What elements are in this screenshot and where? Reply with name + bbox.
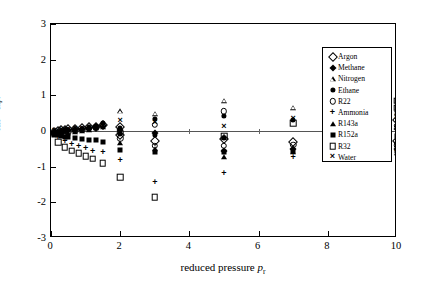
data-point-nitrogen: [93, 124, 99, 129]
data-point-nitrogen: [394, 107, 395, 112]
x-axis-title-text: reduced pressure: [181, 261, 258, 273]
legend-item-label: R152a: [338, 130, 358, 139]
data-point-ammonia: +: [291, 153, 296, 162]
data-point-r32: [221, 133, 228, 140]
data-point-water: ×: [291, 114, 296, 123]
legend-item-nitrogen[interactable]: Nitrogen: [328, 73, 391, 84]
data-point-water: ×: [66, 125, 71, 134]
data-point-r32: [394, 105, 395, 112]
data-point-r152a: [66, 135, 71, 140]
data-point-r32: [290, 120, 297, 127]
x-axis-tick-label: 0: [47, 240, 52, 251]
x-axis-tick-label: 10: [391, 240, 402, 251]
data-point-water: ×: [394, 112, 395, 121]
data-point-ethane: [291, 118, 296, 123]
legend-item-label: Water: [338, 153, 356, 162]
data-point-ammonia: +: [76, 142, 81, 151]
x-axis-tick-label: 6: [255, 240, 260, 251]
data-point-methane: [220, 147, 227, 154]
data-point-r152a: [52, 132, 57, 137]
data-point-r22: [93, 124, 99, 130]
data-point-r152a: [118, 147, 123, 152]
legend-item-label: Methane: [338, 63, 365, 72]
open-square-icon: [328, 142, 337, 151]
legend-item-r152a[interactable]: R152a: [328, 129, 391, 140]
data-point-ethane: [86, 125, 91, 130]
data-point-r143a: [290, 150, 296, 155]
data-point-water: ×: [118, 116, 123, 125]
x-axis-tick-label: 2: [117, 240, 122, 251]
x-axis-title-subscript: r: [263, 267, 266, 276]
data-point-ammonia: +: [394, 148, 395, 157]
data-point-r22: [290, 141, 296, 147]
x-axis-tick: [120, 231, 121, 236]
data-point-r22: [394, 142, 395, 148]
data-point-ethane: [221, 136, 226, 141]
data-point-r152a: [222, 149, 227, 154]
data-point-r152a: [55, 133, 60, 138]
data-point-ethane: [394, 112, 395, 117]
data-point-r152a: [87, 137, 92, 142]
y-axis-tick: [51, 95, 56, 96]
data-point-r152a: [80, 136, 85, 141]
data-point-r143a: [100, 124, 106, 129]
legend-item-ammonia[interactable]: +Ammonia: [328, 107, 391, 118]
data-point-r152a: [395, 148, 396, 153]
cross-icon: ×: [328, 153, 337, 162]
zero-line-tick: [189, 129, 190, 134]
data-point-r32: [55, 139, 62, 146]
filled-square-icon: [328, 130, 337, 139]
data-point-argon: [63, 124, 73, 134]
data-point-r143a: [221, 154, 227, 159]
data-point-r152a: [152, 150, 157, 155]
y-axis-tick: [51, 202, 56, 203]
open-triangle-icon: [328, 74, 337, 83]
figure-scatter-plot: 3210-1-2-3 100(1-Zcalc/Zexpt) ++++++++++…: [0, 0, 426, 290]
y-axis-tick-label: 2: [41, 53, 46, 64]
data-point-r32: [75, 150, 82, 157]
legend-item-r22[interactable]: R22: [328, 96, 391, 107]
y-axis-tick: [51, 24, 56, 25]
data-point-r152a: [62, 134, 67, 139]
legend-item-label: R22: [338, 97, 351, 106]
legend-item-ethane[interactable]: Ethane: [328, 85, 391, 96]
data-point-r32: [89, 156, 96, 163]
data-point-argon: [392, 136, 395, 146]
data-point-methane: [393, 145, 395, 152]
data-point-nitrogen: [152, 111, 158, 116]
data-point-r32: [62, 144, 69, 151]
data-point-r152a: [100, 139, 105, 144]
legend-item-label: R143a: [338, 119, 358, 128]
data-point-r152a: [291, 148, 296, 153]
data-point-r22: [152, 121, 158, 127]
data-point-water: ×: [73, 125, 78, 134]
data-point-argon: [392, 115, 395, 125]
data-point-r152a: [73, 136, 78, 141]
y-axis-tick: [51, 60, 56, 61]
data-point-r143a: [152, 146, 158, 151]
legend-item-label: R32: [338, 142, 351, 151]
data-point-nitrogen: [86, 125, 92, 130]
data-point-methane: [51, 129, 58, 136]
legend-item-r32[interactable]: R32: [328, 141, 391, 152]
data-point-r143a: [394, 150, 395, 155]
legend-item-argon[interactable]: Argon: [328, 51, 391, 62]
data-point-r143a: [93, 125, 99, 130]
x-axis-tick: [259, 231, 260, 236]
legend-item-r143a[interactable]: R143a: [328, 118, 391, 129]
data-point-ethane: [394, 141, 395, 146]
data-point-ammonia: +: [100, 148, 105, 157]
zero-line-tick: [120, 129, 121, 134]
data-point-ethane: [93, 123, 98, 128]
x-axis-tick: [51, 231, 52, 236]
legend-item-methane[interactable]: Methane: [328, 62, 391, 73]
y-axis-tick-labels: 3210-1-2-3: [26, 23, 46, 237]
data-point-methane: [290, 145, 297, 152]
data-point-nitrogen: [117, 109, 123, 114]
y-axis-tick: [51, 131, 56, 132]
legend-item-water[interactable]: ×Water: [328, 152, 391, 163]
data-point-ammonia: +: [83, 144, 88, 153]
data-point-r32: [394, 97, 395, 104]
x-axis-title: reduced pressure pr: [181, 261, 266, 276]
x-axis-tick-label: 8: [324, 240, 329, 251]
